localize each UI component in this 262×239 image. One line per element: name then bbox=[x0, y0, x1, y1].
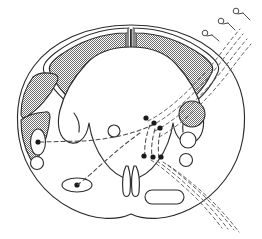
small-neuron-left bbox=[31, 157, 44, 170]
sensory-receptor-1 bbox=[202, 30, 219, 41]
bouton-l2 bbox=[150, 154, 155, 159]
tract-cell-right-open-lower bbox=[180, 154, 193, 167]
bouton-l1 bbox=[141, 153, 146, 158]
sensory-receptor-3 bbox=[233, 8, 250, 20]
tract-cell-right-shaded bbox=[179, 101, 205, 127]
ventral-median-fissure-right bbox=[132, 166, 140, 197]
sensory-receptor-2 bbox=[218, 18, 235, 30]
ventral-cell-group bbox=[145, 190, 184, 204]
sensory-receptor-3-bulb bbox=[233, 8, 239, 14]
ventral-median-fissure bbox=[123, 166, 131, 197]
bouton-u3 bbox=[157, 125, 162, 130]
bouton-l3 bbox=[158, 154, 163, 159]
spinal-cord-diagram bbox=[0, 0, 262, 239]
sensory-receptor-1-bulb bbox=[202, 30, 208, 36]
tract-cell-right-open-upper bbox=[180, 132, 196, 148]
bouton-u1 bbox=[143, 115, 148, 120]
sensory-receptor-2-bulb bbox=[218, 18, 224, 24]
diagram-canvas bbox=[0, 0, 262, 239]
central-canal bbox=[108, 125, 120, 137]
